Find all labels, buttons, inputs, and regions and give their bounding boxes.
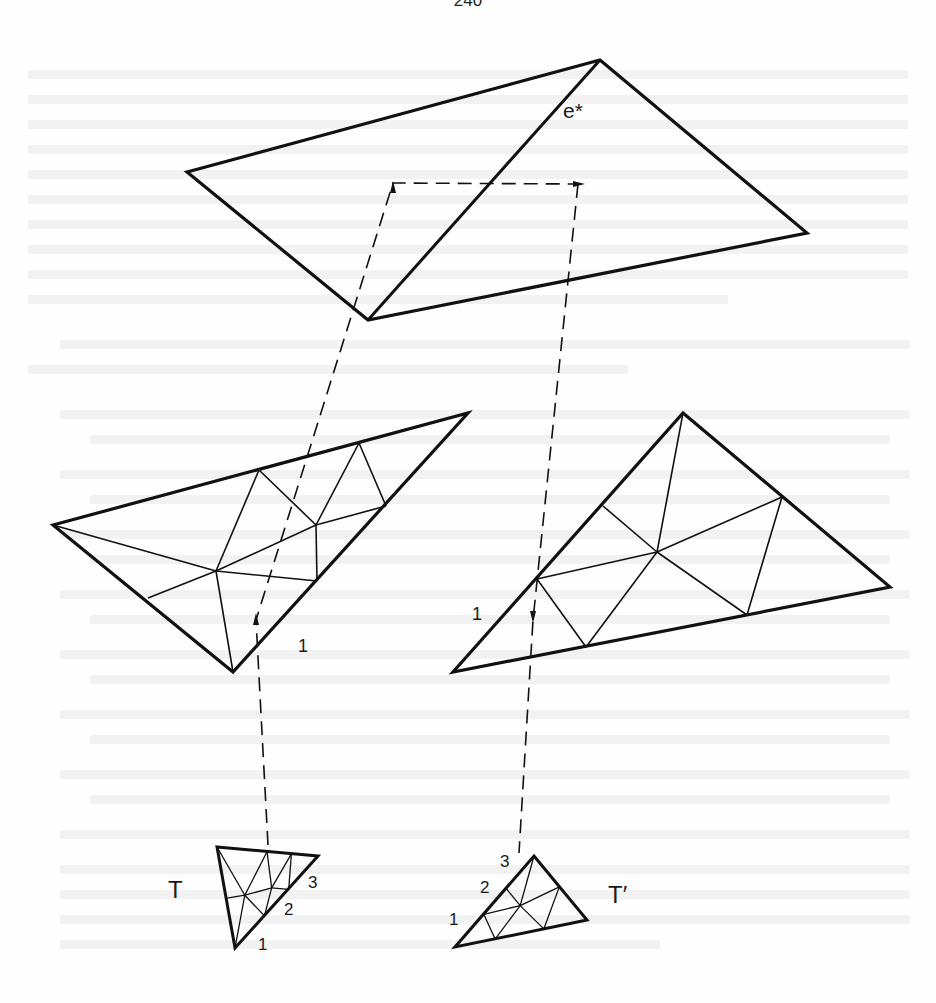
inner-mesh-edge xyxy=(245,888,272,895)
inner-mesh-edge xyxy=(267,852,272,888)
inner-mesh-edge xyxy=(216,571,233,672)
inner-mesh-edge xyxy=(603,506,657,552)
reference-triangle-T-prime: T′123 xyxy=(449,852,628,947)
arrowhead-icon xyxy=(573,181,585,187)
inner-mesh-edge xyxy=(316,525,317,581)
inner-mesh-edge xyxy=(245,852,267,895)
triangulation-mapping-diagram: e*11T123T′123 xyxy=(0,0,936,1003)
inner-mesh-edge xyxy=(259,470,316,525)
triangle-label-T: T xyxy=(168,876,183,903)
inner-mesh-edge xyxy=(506,889,520,906)
vertex-label-3: 3 xyxy=(500,852,509,871)
inner-mesh-edge xyxy=(657,413,683,552)
inner-mesh-edge xyxy=(272,854,292,888)
inner-mesh-edge xyxy=(53,525,216,571)
vertex-label-2: 2 xyxy=(284,900,293,919)
quad-outline xyxy=(187,60,807,320)
inner-mesh-edge xyxy=(216,571,317,581)
inner-mesh-edge xyxy=(747,497,782,615)
inner-mesh-edge xyxy=(537,579,586,647)
inner-mesh-edge xyxy=(245,895,265,916)
vertex-label-3: 3 xyxy=(308,873,317,892)
reference-triangle-T: T123 xyxy=(168,847,318,954)
inner-mesh-edge xyxy=(359,443,386,506)
inner-mesh-edge xyxy=(148,571,216,598)
document-page: 240 e*11T123T′123 xyxy=(0,0,936,1003)
inner-mesh-edge xyxy=(216,525,316,571)
inner-mesh-edge xyxy=(227,895,245,898)
element-label-e-star: e* xyxy=(563,99,583,122)
vertex-label-1: 1 xyxy=(258,935,267,954)
right-refined-triangle: 1 xyxy=(453,413,890,672)
vertex-label-2: 2 xyxy=(480,878,489,897)
top-quadrilateral-element: e* xyxy=(187,60,807,320)
inner-mesh-edge xyxy=(520,906,544,929)
edge-label-1: 1 xyxy=(298,636,308,656)
vertex-label-1: 1 xyxy=(449,910,458,929)
edge-label-1: 1 xyxy=(472,604,482,624)
inner-mesh-edge xyxy=(657,552,747,615)
arrowhead-icon xyxy=(530,611,536,623)
triangle-label-T-prime: T′ xyxy=(608,881,628,908)
left-refined-triangle: 1 xyxy=(53,413,468,672)
triangle-outline xyxy=(453,413,890,672)
inner-mesh-edge xyxy=(316,443,359,525)
inner-mesh-edge xyxy=(484,914,495,939)
inner-mesh-edge xyxy=(657,497,782,552)
inner-mesh-edge xyxy=(216,470,259,571)
